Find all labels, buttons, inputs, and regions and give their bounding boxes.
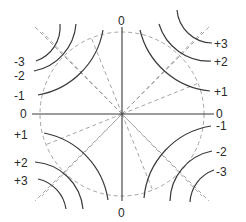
label-axis-left: 0 [20, 107, 27, 121]
field-radial-4 [122, 114, 202, 196]
field-radial-6 [122, 83, 199, 114]
label-axis-bottom: 0 [118, 206, 125, 220]
label-bl-2: +3 [14, 174, 28, 188]
label-bl-1: +2 [14, 156, 28, 170]
label-br-2: -3 [216, 165, 227, 179]
equipotentials-top-right [140, 10, 212, 91]
equipotential-tr-3 [177, 10, 212, 43]
label-axis-top: 0 [118, 14, 125, 28]
field-radial-2 [42, 32, 122, 114]
equipotentials-top-left [34, 24, 103, 95]
label-tr-1: +2 [214, 55, 228, 69]
quadrupole-diagram: 0 0 0 0 -3 -2 -1 +3 +2 +1 +1 +2 +3 -1 -2… [0, 0, 246, 222]
label-br-1: -2 [216, 145, 227, 159]
equipotentials-bottom-right [144, 126, 214, 202]
label-tl-1: -2 [14, 69, 25, 83]
label-tl-0: -3 [14, 55, 25, 69]
equipotential-bl-2 [35, 162, 83, 209]
field-radial-5 [45, 114, 122, 145]
field-radial-1 [122, 32, 202, 114]
label-tr-2: +1 [214, 85, 228, 99]
axes [32, 27, 214, 201]
label-bl-0: +1 [14, 128, 28, 142]
label-tl-2: -1 [14, 89, 25, 103]
equipotential-tl-3 [36, 24, 60, 61]
label-br-0: -1 [216, 119, 227, 133]
label-tr-0: +3 [214, 37, 228, 51]
field-radial-3 [42, 114, 122, 196]
equipotential-bl-3 [38, 179, 66, 209]
field-radial-7 [91, 37, 122, 114]
